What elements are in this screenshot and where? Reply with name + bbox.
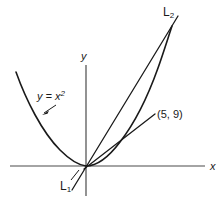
line-L2-label-sub: 2 — [170, 11, 174, 20]
line-L1-label: L1 — [60, 180, 71, 194]
line-L1-leader — [71, 170, 79, 180]
line-L2-label-text: L — [163, 5, 170, 19]
line-L2-label: L2 — [163, 6, 174, 20]
parabola-equation-text: y = x — [37, 90, 61, 102]
curve-label-arrowhead — [42, 111, 49, 116]
line-L2 — [84, 114, 155, 169]
math-figure: y x L2 L1 y = x2 (5, 9) — [0, 0, 224, 207]
line-L1-label-text: L — [60, 179, 67, 193]
point-coordinate-label: (5, 9) — [157, 109, 183, 120]
parabola-equation-label: y = x2 — [37, 90, 65, 102]
curve-label-leader — [44, 105, 56, 113]
y-axis-label: y — [81, 51, 87, 62]
figure-canvas — [0, 0, 224, 207]
x-axis-label: x — [210, 161, 216, 172]
line-L1-label-sub: 1 — [67, 185, 71, 194]
line-L1 — [72, 16, 178, 190]
parabola-equation-exponent: 2 — [61, 89, 65, 98]
